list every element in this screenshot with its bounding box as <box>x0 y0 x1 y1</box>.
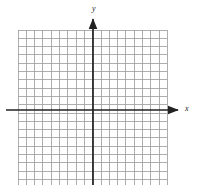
x-axis-label: x <box>185 105 189 113</box>
y-axis-label: y <box>92 5 96 13</box>
coordinate-grid-svg <box>0 0 202 185</box>
graph-figure: y x <box>0 0 202 185</box>
